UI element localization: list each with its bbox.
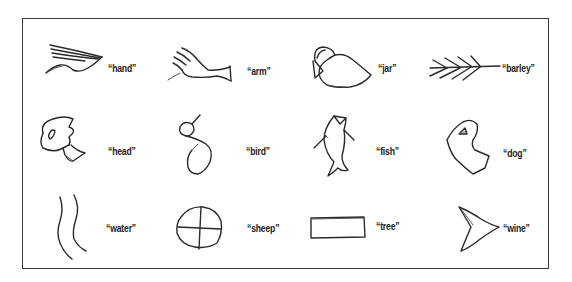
bird-label: “bird”: [246, 145, 270, 157]
head-label: “head”: [108, 145, 136, 157]
jar-label: “jar”: [378, 62, 396, 74]
bird-pictograph-icon: [170, 112, 230, 180]
hand-pictograph-icon: [40, 40, 110, 80]
arm-label: “arm”: [247, 65, 271, 77]
tree-label: “tree”: [376, 220, 399, 232]
hand-label: “hand”: [108, 62, 136, 74]
tree-pictograph-icon: [308, 215, 368, 241]
arm-pictograph-icon: [162, 43, 242, 88]
wine-pictograph-icon: [455, 203, 505, 253]
water-pictograph-icon: [52, 193, 92, 263]
barley-pictograph-icon: [425, 52, 505, 84]
barley-label: “barley”: [502, 62, 535, 74]
wine-label: “wine”: [503, 222, 530, 234]
sheep-label: “sheep”: [247, 222, 279, 234]
fish-label: “fish”: [376, 145, 399, 157]
water-label: “water”: [106, 222, 136, 234]
dog-label: “dog”: [503, 147, 527, 159]
fish-pictograph-icon: [312, 112, 372, 182]
jar-pictograph-icon: [305, 43, 380, 93]
head-pictograph-icon: [35, 115, 95, 165]
sheep-pictograph-icon: [173, 203, 225, 251]
dog-pictograph-icon: [443, 118, 503, 178]
